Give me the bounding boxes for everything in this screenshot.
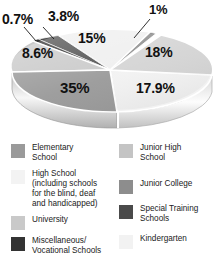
legend-elementary-school[interactable]: Elementary School <box>11 143 111 163</box>
legend-label-junior-high-school: Junior High School <box>140 143 181 163</box>
legend-swatch-miscellaneous-vocational-schools <box>11 237 25 251</box>
legend-swatch-high-school <box>11 170 25 184</box>
legend-label-miscellaneous-vocational-schools: Miscellaneous/ Vocational Schools <box>32 236 101 256</box>
pie-chart: 0.7% 3.8% 1% 8.6% 15% 18% 17.9% 35% <box>0 0 218 143</box>
legend-label-high-school: High School (including schools for the b… <box>32 169 98 209</box>
legend-junior-high-school[interactable]: Junior High School <box>119 143 218 163</box>
legend-high-school[interactable]: High School (including schools for the b… <box>11 169 111 209</box>
legend-label-kindergarten: Kindergarten <box>140 234 187 244</box>
pct-label-18: 18% <box>145 44 172 60</box>
pct-label-3-8: 3.8% <box>48 8 79 24</box>
legend-swatch-junior-high-school <box>119 144 133 158</box>
pct-label-15: 15% <box>78 30 105 46</box>
pct-label-35: 35% <box>60 79 89 96</box>
legend-kindergarten[interactable]: Kindergarten <box>119 234 218 249</box>
legend-column-left: Elementary School High School (including… <box>11 143 111 262</box>
pct-label-0-7: 0.7% <box>2 11 33 27</box>
legend-special-training-schools[interactable]: Special Training Schools <box>119 204 218 224</box>
legend-label-junior-college: Junior College <box>140 179 192 189</box>
pct-label-1: 1% <box>149 2 167 17</box>
legend-swatch-university <box>11 216 25 230</box>
legend-label-special-training-schools: Special Training Schools <box>140 204 198 224</box>
legend-swatch-elementary-school <box>11 144 25 158</box>
pct-label-8-6: 8.6% <box>22 45 53 61</box>
pie-sheen <box>9 30 211 110</box>
legend-university[interactable]: University <box>11 215 111 230</box>
legend-swatch-junior-college <box>119 180 133 194</box>
legend-miscellaneous-vocational-schools[interactable]: Miscellaneous/ Vocational Schools <box>11 236 111 256</box>
legend-label-university: University <box>32 215 68 225</box>
pct-label-17-9: 17.9% <box>136 80 175 96</box>
legend-junior-college[interactable]: Junior College <box>119 179 218 194</box>
legend: Elementary School High School (including… <box>0 143 218 272</box>
legend-label-elementary-school: Elementary School <box>32 143 73 163</box>
legend-column-right: Junior High School Junior College Specia… <box>119 143 218 255</box>
wall-divider <box>117 112 119 128</box>
legend-swatch-kindergarten <box>119 235 133 249</box>
legend-swatch-special-training-schools <box>119 205 133 219</box>
leader-line-0-7 <box>24 27 36 41</box>
